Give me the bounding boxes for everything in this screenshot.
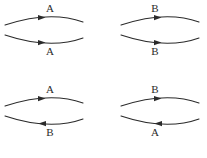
bigon-diagram-bottom-right: B A	[107, 83, 203, 155]
top-arc-label: B	[107, 84, 203, 95]
figure-canvas: A A B B A B B A	[0, 0, 207, 158]
bottom-arc-label: A	[107, 127, 203, 138]
bigon-diagram-top-right: B B	[107, 2, 203, 74]
top-arc-arrowhead-right	[154, 96, 162, 101]
top-arc-arrowhead-right	[154, 15, 162, 20]
top-arc-label: B	[107, 3, 203, 14]
bottom-arc-label: B	[2, 127, 98, 138]
top-arc-label: A	[2, 3, 98, 14]
top-arc-arrowhead-right	[38, 15, 46, 20]
bigon-diagram-bottom-left: A B	[2, 83, 98, 155]
top-arc-label: A	[2, 84, 98, 95]
bottom-arc-arrowhead-left	[39, 121, 47, 126]
top-arc-arrowhead-right	[38, 96, 46, 101]
bigon-diagram-top-left: A A	[2, 2, 98, 74]
bottom-arc-label: A	[2, 46, 98, 57]
bottom-arc-label: B	[107, 46, 203, 57]
bottom-arc-arrowhead-right	[38, 40, 46, 45]
